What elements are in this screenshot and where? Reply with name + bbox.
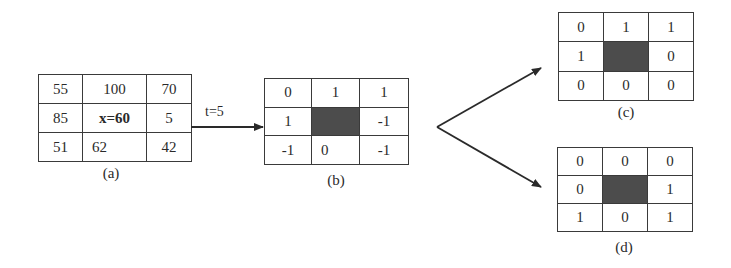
arrow-b-to-c [437,68,541,127]
arrows-layer [0,0,731,268]
threshold-label: t=5 [205,104,224,120]
arrow-b-to-d [437,127,541,187]
